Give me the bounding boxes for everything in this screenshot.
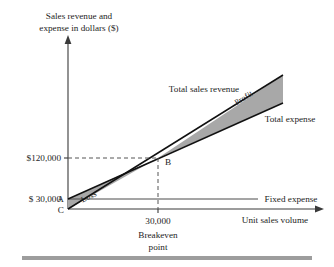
x-axis-arrowhead: [315, 206, 324, 213]
y-axis-arrowhead: [65, 35, 72, 44]
x-tick-label-30k: 30,000: [145, 216, 171, 226]
point-b-label: B: [165, 157, 171, 167]
y-axis: [65, 35, 72, 209]
chart-canvas: Sales revenue and expense in dollars ($): [0, 0, 334, 267]
y-axis-title-line2: expense in dollars ($): [39, 23, 118, 33]
y-tick-label-120k: $120,000: [27, 153, 62, 163]
breakeven-caption-line2: point: [149, 242, 168, 252]
y-axis-title-line1: Sales revenue and: [46, 11, 113, 21]
fixed-expense-label: Fixed expense: [265, 194, 318, 204]
loss-region-label: Loss: [80, 189, 99, 204]
bottom-divider: [22, 256, 312, 260]
x-axis: [68, 206, 324, 213]
total-expense-line: [68, 103, 283, 199]
total-expense-label: Total expense: [265, 114, 316, 124]
total-sales-revenue-label: Total sales revenue: [169, 84, 239, 94]
breakeven-chart-figure: Sales revenue and expense in dollars ($): [0, 0, 334, 267]
point-a-label: A: [57, 194, 64, 204]
point-c-label: C: [58, 205, 64, 215]
breakeven-caption-line1: Breakeven: [138, 230, 178, 240]
x-axis-title: Unit sales volume: [242, 215, 308, 225]
